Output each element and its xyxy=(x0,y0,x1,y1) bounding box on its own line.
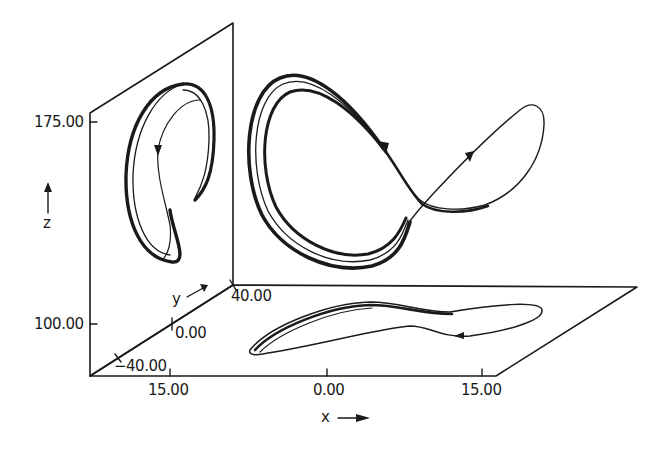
y-axis-label: y xyxy=(172,290,180,308)
z-tick-label-top: 175.00 xyxy=(34,113,84,131)
trajectory-arrow-icon xyxy=(465,151,474,162)
y-tick-label-neg: −40.00 xyxy=(114,357,167,375)
y-tick-label-zero: 0.00 xyxy=(175,324,206,342)
xy-projection xyxy=(250,302,542,355)
z-axis-label: z xyxy=(43,214,50,232)
main-trajectory xyxy=(249,75,544,268)
yz-projection xyxy=(126,84,214,262)
attractor-figure: 175.00 100.00 z y −40.00 0.00 40.00 15.0… xyxy=(0,0,669,450)
x-axis-label: x xyxy=(321,408,329,426)
x-tick-label-right: 15.00 xyxy=(461,381,501,399)
x-tick-label-mid: 0.00 xyxy=(313,381,344,399)
z-tick-label-bottom: 100.00 xyxy=(34,315,84,333)
y-tick-label-pos: 40.00 xyxy=(231,287,271,305)
yz-plane-frame xyxy=(90,23,233,376)
xy-arrow-icon xyxy=(454,332,464,339)
yz-arrow-icon xyxy=(154,145,162,156)
x-tick-label-left: 15.00 xyxy=(148,381,188,399)
